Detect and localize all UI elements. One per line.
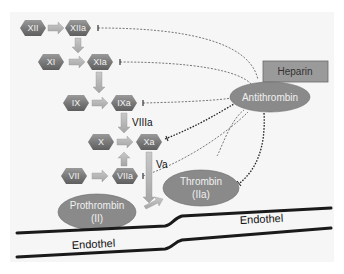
factor-ixa-label: IXa: [117, 98, 131, 108]
antithrombin-ellipse: Antithrombin: [230, 82, 310, 112]
factor-xi-label: XI: [47, 57, 56, 67]
factor-xa-label: Xa: [143, 137, 154, 147]
prothrombin-sublabel: (II): [91, 213, 103, 224]
inhibit-xia-line: [120, 62, 252, 85]
heparin-label: Heparin: [277, 66, 312, 77]
factor-vii: VII: [61, 168, 87, 184]
factor-viia: VIIa: [112, 168, 138, 184]
thrombin-sublabel: (IIa): [192, 189, 210, 200]
inhibit-thrombin-line: [240, 113, 264, 183]
thrombin-label: Thrombin: [180, 176, 222, 187]
factor-xa: Xa: [136, 134, 162, 150]
heparin-box: Heparin: [263, 61, 328, 82]
factor-xiia: XIIa: [65, 20, 91, 36]
inhibit-xa-line: [165, 104, 234, 139]
inhibit-xiia-line: [98, 28, 258, 80]
factor-ix: IX: [63, 95, 89, 111]
factor-xii: XII: [20, 20, 46, 36]
factor-xii-label: XII: [27, 23, 38, 33]
factor-x-label: X: [98, 137, 104, 147]
factor-ixa: IXa: [111, 95, 137, 111]
factor-ix-label: IX: [72, 98, 81, 108]
antithrombin-label: Antithrombin: [242, 92, 298, 103]
coagulation-diagram: XII XIIa XI XIa IX IXa: [0, 0, 344, 274]
factor-xi: XI: [38, 54, 64, 70]
inhibit-viia-line: [217, 110, 244, 156]
factor-x: X: [88, 134, 114, 150]
factor-xiia-label: XIIa: [70, 23, 86, 33]
endothelium-lower-label: Endothel: [71, 237, 115, 251]
endothelium-upper-label: Endothel: [239, 212, 283, 226]
factor-vii-label: VII: [68, 171, 79, 181]
endothelium-lower-line: [17, 228, 331, 257]
thrombin-ellipse: Thrombin (IIa): [163, 170, 239, 206]
factor-hexagons: XII XIIa XI XIa IX IXa: [20, 20, 162, 184]
factor-xia-label: XIa: [93, 57, 107, 67]
prothrombin-ellipse: Prothrombin (II): [58, 194, 136, 230]
cofactor-viiia-label: VIIIa: [132, 117, 153, 128]
prothrombin-label: Prothrombin: [70, 200, 124, 211]
cofactor-va-label: Va: [156, 159, 168, 170]
factor-viia-label: VIIa: [117, 171, 133, 181]
factor-xia: XIa: [87, 54, 113, 70]
inhibit-ixa-line: [143, 98, 232, 103]
diagram-canvas: XII XIIa XI XIa IX IXa: [0, 0, 344, 274]
